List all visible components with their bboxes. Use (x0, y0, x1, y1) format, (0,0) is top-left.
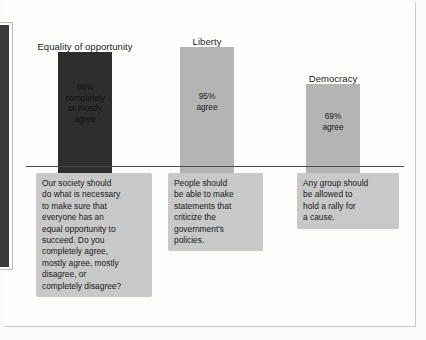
bar-label-democracy: Democracy (309, 73, 358, 84)
caption-box-equality-of-opportunity: Our society should do what is necessary … (36, 173, 152, 297)
bar-rect-democracy[interactable]: 69% agree (306, 84, 360, 173)
bar-group-equality-of-opportunity: Equality of opportunity 86% completely o… (58, 52, 112, 173)
bar-group-democracy: Democracy 69% agree (306, 84, 360, 173)
chart-baseline-axis (26, 166, 404, 167)
bar-value-democracy: 69% agree (306, 111, 360, 132)
bar-rect-liberty[interactable]: 95% agree (180, 47, 234, 173)
slide-canvas: Equality of opportunity 86% completely o… (0, 0, 426, 340)
bar-chart-plot-area: Equality of opportunity 86% completely o… (24, 8, 414, 173)
caption-box-liberty: People should be able to make statements… (168, 173, 263, 251)
caption-box-democracy: Any group should be allowed to hold a ra… (297, 173, 399, 229)
bar-value-liberty: 95% agree (180, 91, 234, 112)
bar-label-equality-of-opportunity: Equality of opportunity (37, 41, 132, 52)
left-spine-bar (0, 25, 9, 267)
bar-label-liberty: Liberty (193, 36, 222, 47)
bar-value-equality-of-opportunity: 86% completely or mostly agree (58, 82, 112, 124)
bar-rect-equality-of-opportunity[interactable]: 86% completely or mostly agree (58, 52, 112, 173)
bar-group-liberty: Liberty 95% agree (180, 47, 234, 173)
